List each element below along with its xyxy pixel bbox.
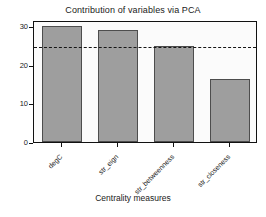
x-tick-mark — [61, 143, 62, 147]
x-tick-label: str_closeness — [142, 153, 232, 217]
expected-average-contribution — [34, 47, 256, 48]
y-tick-mark — [29, 104, 33, 105]
chart-title: Contribution of variables via PCA — [0, 5, 266, 15]
bar — [42, 26, 82, 142]
x-tick-label: str_betweenness — [86, 153, 176, 217]
x-tick-mark — [117, 143, 118, 147]
x-tick-label: str_eign — [30, 153, 120, 217]
x-tick-label: degC — [0, 153, 63, 217]
x-tick-mark — [173, 143, 174, 147]
y-tick-mark — [29, 66, 33, 67]
chart-figure: Contribution of variables via PCA Contri… — [0, 0, 266, 217]
bar — [154, 46, 194, 142]
plot-panel — [33, 21, 257, 143]
x-axis-title: Centrality measures — [0, 193, 266, 203]
y-tick-label: 10 — [2, 99, 28, 108]
x-tick-mark — [229, 143, 230, 147]
plot-area — [34, 22, 256, 142]
y-tick-label: 20 — [2, 61, 28, 70]
bar — [210, 79, 250, 142]
y-tick-label: 30 — [2, 22, 28, 31]
y-tick-mark — [29, 27, 33, 28]
y-tick-label: 0 — [2, 138, 28, 147]
y-tick-mark — [29, 143, 33, 144]
